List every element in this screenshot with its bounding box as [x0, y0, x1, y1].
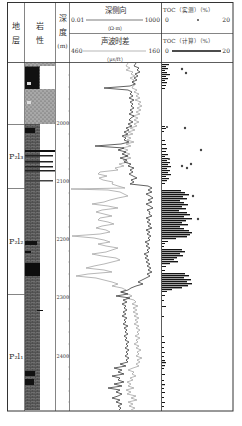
depth-label-2400: 2400 — [57, 353, 70, 359]
depth-label-2200: 2200 — [57, 236, 70, 242]
strata-header-2: 层 — [12, 36, 20, 45]
toc-measured-max: 20 — [222, 16, 230, 23]
ac-max-label: 160 — [149, 47, 161, 54]
well-log-figure: 地 层 岩 性 深 度 (m) 深侧向 0.01 1000 （Ω·m） 声波时差… — [0, 0, 242, 426]
rd-max-label: 1000 — [145, 16, 160, 23]
ac-min-label: 460 — [71, 47, 83, 54]
depth-header-unit: (m) — [57, 42, 67, 49]
ac-unit: （μs/ft） — [104, 56, 125, 63]
depth-header-2: 度 — [59, 27, 67, 37]
toc-track — [162, 64, 202, 407]
depth-column: 2000 2100 2200 2300 2400 — [57, 75, 70, 402]
strata-label-p2l1: P₂l₁ — [9, 352, 23, 361]
rd-track-name: 深侧向 — [105, 5, 126, 15]
ac-track-name: 声波时差 — [101, 36, 130, 46]
rd-min-label: 0.01 — [71, 16, 84, 23]
toc-calculated-bars — [162, 64, 192, 407]
strata-header-1: 地 — [12, 21, 20, 31]
toc-measured-name: TOC（实测）（%） — [163, 6, 214, 14]
log-curves-track — [71, 63, 153, 410]
toc-measured-dot-icon — [197, 19, 199, 21]
toc-calc-max: 20 — [222, 47, 230, 54]
lithology-header-2: 性 — [36, 35, 44, 45]
rd-curve — [95, 63, 153, 410]
lithology-column — [25, 63, 55, 410]
strata-column: P₂l₃ P₂l₂ P₂l₁ — [9, 152, 23, 361]
depth-label-2000: 2000 — [57, 120, 70, 126]
toc-calc-name: TOC（计算）（%） — [163, 37, 214, 45]
rd-unit: （Ω·m） — [105, 25, 125, 31]
strata-label-p2l2: P₂l₂ — [9, 237, 23, 246]
toc-measured-min: 0 — [165, 16, 169, 23]
depth-label-2100: 2100 — [57, 178, 70, 184]
toc-calc-min: 0 — [165, 47, 169, 54]
depth-label-2300: 2300 — [57, 294, 70, 300]
strata-label-p2l3: P₂l₃ — [9, 152, 23, 161]
lithology-header-1: 岩 — [36, 21, 44, 31]
depth-header-1: 深 — [59, 14, 67, 23]
